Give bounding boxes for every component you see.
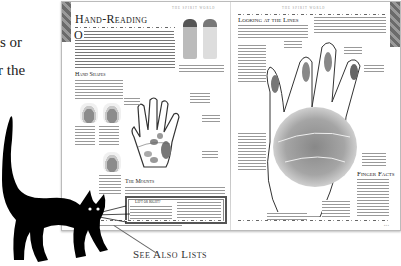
mount-label bbox=[124, 97, 140, 105]
footer-rule-right bbox=[238, 220, 390, 221]
section-heading-finger-facts: Finger Facts bbox=[357, 170, 395, 178]
palm-label bbox=[322, 200, 350, 218]
mount-label bbox=[202, 150, 218, 160]
mounts-text bbox=[125, 186, 225, 194]
section-heading-hand-shapes: Hand Shapes bbox=[75, 71, 106, 77]
page-title-right: Looking at the Lines bbox=[238, 16, 298, 24]
page-title-left: Hand-Reading bbox=[75, 12, 147, 27]
hand-shapes-text bbox=[75, 79, 123, 99]
running-head-right: THE SPIRIT WORLD bbox=[282, 6, 325, 10]
black-cat-illustration bbox=[0, 110, 135, 266]
running-head-left: THE SPIRIT WORLD bbox=[172, 6, 215, 10]
side-text-line-2: r the bbox=[0, 62, 25, 79]
palm-label bbox=[362, 152, 386, 166]
illustration-caption bbox=[179, 64, 224, 73]
ornament-border-icon bbox=[390, 2, 400, 47]
gutter-divider bbox=[230, 2, 231, 230]
boxout-heading: Left or Right? bbox=[135, 199, 161, 204]
finger-label bbox=[344, 46, 362, 54]
boxout-text-right bbox=[177, 201, 221, 219]
finger-facts-text bbox=[357, 178, 389, 218]
egyptian-illustration bbox=[179, 17, 224, 62]
intro-text-block bbox=[84, 30, 174, 38]
palm-label bbox=[267, 212, 307, 220]
mount-label bbox=[202, 114, 220, 124]
title-rule bbox=[75, 27, 175, 28]
page-number: ▪ ▪ ▪ bbox=[384, 223, 389, 227]
ornament-border-icon bbox=[62, 2, 71, 42]
boxout-text-left bbox=[130, 205, 172, 219]
intro-body-text bbox=[75, 39, 175, 69]
header-rule-right bbox=[238, 14, 386, 15]
mount-label bbox=[190, 92, 210, 104]
finger-label bbox=[364, 64, 384, 72]
see-also-lists-label: See Also Lists bbox=[133, 248, 207, 260]
finger-label bbox=[284, 40, 302, 48]
side-text-line-1: s or bbox=[0, 34, 22, 51]
